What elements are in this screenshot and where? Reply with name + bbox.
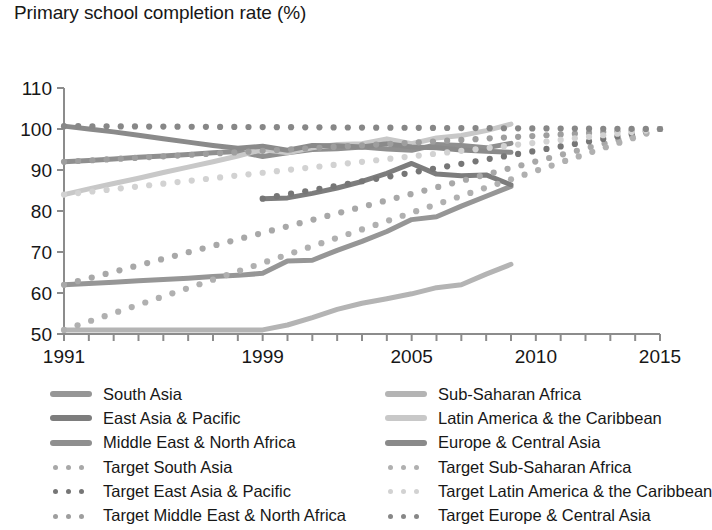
legend-line-swatch-icon (383, 431, 429, 455)
data-dot (574, 148, 580, 154)
data-dot (160, 153, 166, 159)
legend-item[interactable]: Target Sub-Saharan Africa (383, 455, 712, 479)
x-axis-tick-label: 2010 (515, 346, 557, 367)
data-dot (231, 124, 237, 130)
data-dot (401, 171, 407, 177)
data-dot (331, 144, 337, 150)
data-dot (310, 216, 316, 222)
x-axis-tick-label: 2015 (639, 346, 681, 367)
data-dot (629, 126, 635, 132)
data-dot (146, 123, 152, 129)
data-dot (372, 222, 378, 228)
data-dot (169, 290, 175, 296)
data-dot (210, 277, 216, 283)
data-dot (89, 274, 95, 280)
data-dot (160, 124, 166, 130)
data-dot (529, 125, 535, 131)
data-dot (586, 126, 592, 132)
legend-dotted-swatch-icon (383, 479, 429, 503)
data-dot (260, 170, 266, 176)
data-dot (227, 238, 233, 244)
legend-item-label: Target Sub-Saharan Africa (438, 459, 632, 476)
data-dot (572, 135, 578, 141)
legend-item[interactable]: Sub-Saharan Africa (383, 382, 712, 406)
data-dot (387, 173, 393, 179)
data-dot (427, 204, 433, 210)
data-dot (172, 253, 178, 259)
data-dot (373, 157, 379, 163)
data-dot (338, 209, 344, 215)
data-dot (130, 264, 136, 270)
legend-line-swatch-icon (383, 382, 429, 406)
data-dot (401, 140, 407, 146)
data-dot (576, 153, 582, 159)
data-dot (444, 149, 450, 155)
data-dot (132, 123, 138, 129)
data-dot (463, 177, 469, 183)
data-dot (380, 198, 386, 204)
data-dot (529, 133, 535, 139)
legend-item-label: Europe & Central Asia (438, 434, 600, 451)
legend-item[interactable]: South Asia (48, 382, 346, 406)
data-dot (440, 199, 446, 205)
data-dot (118, 123, 124, 129)
data-dot (75, 158, 81, 164)
data-dot (103, 123, 109, 129)
series-sub-saharan-africa (64, 264, 511, 330)
y-axis-tick-label: 110 (22, 78, 52, 99)
legend-item[interactable]: Target South Asia (48, 455, 346, 479)
data-dot (203, 151, 209, 157)
data-dot (558, 125, 564, 131)
data-dot (61, 192, 67, 198)
x-axis-tick-label: 2005 (391, 346, 433, 367)
legend-dotted-swatch-icon (383, 455, 429, 479)
data-dot (217, 150, 223, 156)
legend-dotted-swatch-icon (48, 479, 94, 503)
data-dot (89, 157, 95, 163)
data-dot (394, 195, 400, 201)
legend-item[interactable]: Latin America & the Caribbean (383, 406, 712, 430)
data-dot (223, 272, 229, 278)
data-dot (501, 153, 507, 159)
data-dot (260, 196, 266, 202)
data-dot (435, 184, 441, 190)
legend-item[interactable]: Europe & Central Asia (383, 431, 712, 455)
data-dot (508, 176, 514, 182)
legend-item[interactable]: Target Latin America & the Caribbean (383, 479, 712, 503)
data-dot (600, 126, 606, 132)
data-dot (274, 193, 280, 199)
data-dot (231, 149, 237, 155)
data-dot (600, 132, 606, 138)
y-axis-tick-label: 50 (31, 324, 52, 345)
legend-item-label: Sub-Saharan Africa (438, 386, 581, 403)
legend-item[interactable]: Target Middle East & North Africa (48, 503, 346, 527)
data-dot (401, 154, 407, 160)
data-dot (217, 124, 223, 130)
data-dot (146, 154, 152, 160)
data-dot (189, 124, 195, 130)
data-dot (142, 299, 148, 305)
legend-item[interactable]: East Asia & Pacific (48, 406, 346, 430)
legend-line-swatch-icon (383, 406, 429, 430)
data-dot (416, 139, 422, 145)
legend-item[interactable]: Middle East & North Africa (48, 431, 346, 455)
y-axis-tick-label: 100 (20, 119, 52, 140)
data-dot (515, 134, 521, 140)
data-dot (400, 213, 406, 219)
data-dot (189, 152, 195, 158)
legend-item[interactable]: Target East Asia & Pacific (48, 479, 346, 503)
data-dot (186, 249, 192, 255)
data-dot (132, 184, 138, 190)
data-dot (61, 282, 67, 288)
data-dot (501, 134, 507, 140)
legend-item[interactable]: Target Europe & Central Asia (383, 503, 712, 527)
legend-item-label: Target Middle East & North Africa (103, 507, 346, 524)
data-dot (345, 143, 351, 149)
data-dot (657, 126, 663, 132)
y-axis-tick-label: 80 (31, 201, 52, 222)
legend-dot (414, 465, 419, 470)
data-dot (603, 144, 609, 150)
data-dot (532, 159, 538, 165)
data-dot (504, 166, 510, 172)
series-target-europe-central-asia (61, 123, 663, 132)
